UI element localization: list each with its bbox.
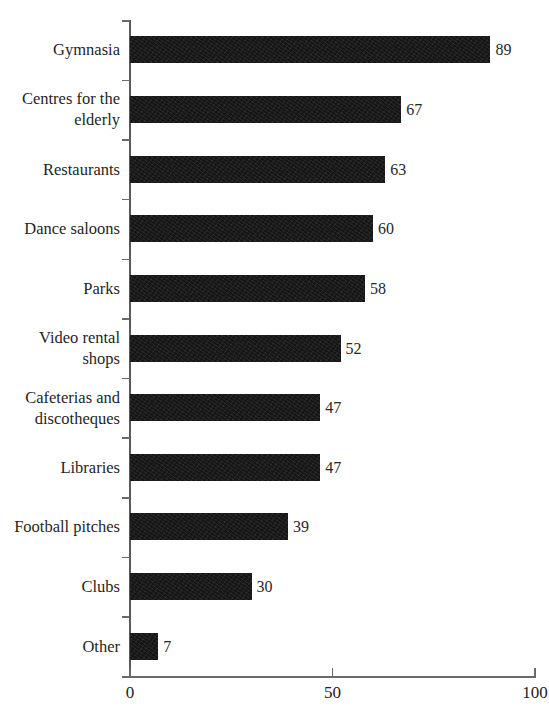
x-axis-tick-label: 0 <box>100 683 160 703</box>
bar <box>130 513 288 540</box>
bar-value-label: 47 <box>325 394 341 421</box>
bar <box>130 96 401 123</box>
category-label: Restaurants <box>0 159 120 180</box>
category-label: Other <box>0 636 120 657</box>
bar <box>130 633 158 660</box>
category-label: Dance saloons <box>0 218 120 239</box>
bar-value-label: 52 <box>346 335 362 362</box>
bar <box>130 394 320 421</box>
bar-value-label: 89 <box>495 36 511 63</box>
category-label: Football pitches <box>0 516 120 537</box>
bar <box>130 215 373 242</box>
category-label: Libraries <box>0 457 120 478</box>
bar-row: Clubs <box>0 557 549 617</box>
bar-value-label: 60 <box>378 215 394 242</box>
bar <box>130 36 490 63</box>
bar-chart: GymnasiaCentres for the elderlyRestauran… <box>0 0 549 708</box>
bar-value-label: 67 <box>406 96 422 123</box>
bar <box>130 156 385 183</box>
x-axis-tick <box>332 668 334 677</box>
x-axis-tick-label: 50 <box>303 683 363 703</box>
bar <box>130 454 320 481</box>
bar-value-label: 47 <box>325 454 341 481</box>
bar-value-label: 63 <box>390 156 406 183</box>
category-label: Cafeterias and discotheques <box>0 387 120 429</box>
category-label: Centres for the elderly <box>0 88 120 130</box>
bar-value-label: 30 <box>257 573 273 600</box>
bar <box>130 573 252 600</box>
category-label: Parks <box>0 278 120 299</box>
bar-value-label: 39 <box>293 513 309 540</box>
x-axis-tick <box>534 668 536 677</box>
category-label: Gymnasia <box>0 39 120 60</box>
category-label: Clubs <box>0 576 120 597</box>
bar <box>130 275 365 302</box>
bar-value-label: 7 <box>163 633 171 660</box>
category-label: Video rental shops <box>0 327 120 369</box>
bar-value-label: 58 <box>370 275 386 302</box>
bar <box>130 335 341 362</box>
x-axis-tick-label: 100 <box>505 683 549 703</box>
bar-row: Other <box>0 616 549 676</box>
x-axis-tick <box>129 668 131 677</box>
